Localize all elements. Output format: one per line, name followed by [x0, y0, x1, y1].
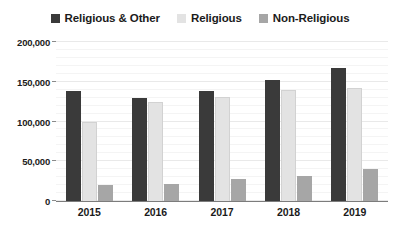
x-axis-tick-label: 2018: [255, 206, 321, 218]
legend-label: Religious: [191, 12, 242, 24]
bar-group: [189, 42, 255, 201]
bar[interactable]: [331, 68, 346, 201]
y-axis-tick-label: 0: [45, 196, 50, 207]
bar[interactable]: [265, 80, 280, 201]
bar-chart: Religious & OtherReligiousNon-Religious …: [0, 0, 400, 235]
y-axis-labels: 050,000100,000150,000200,000: [0, 42, 50, 201]
bar-group: [322, 42, 388, 201]
y-axis-tick-label: 200,000: [17, 37, 50, 48]
bar[interactable]: [347, 88, 362, 201]
bar-groups: [56, 42, 388, 201]
y-axis-tick-label: 150,000: [17, 76, 50, 87]
bar[interactable]: [215, 97, 230, 201]
legend-entry[interactable]: Non-Religious: [259, 12, 350, 24]
bar[interactable]: [132, 98, 147, 201]
x-axis-labels: 20152016201720182019: [56, 206, 388, 218]
bar[interactable]: [98, 185, 113, 201]
bar[interactable]: [363, 169, 378, 201]
square-swatch-icon: [259, 14, 268, 23]
y-axis-tick-label: 100,000: [17, 116, 50, 127]
plot-area: [56, 42, 388, 201]
x-axis-tick-label: 2019: [322, 206, 388, 218]
y-axis-tick-label: 50,000: [22, 156, 50, 167]
bar[interactable]: [66, 91, 81, 201]
bar[interactable]: [199, 91, 214, 202]
bar[interactable]: [164, 184, 179, 201]
x-axis-line: [56, 201, 388, 203]
bar-group: [122, 42, 188, 201]
bar-group: [255, 42, 321, 201]
x-axis-tick-label: 2017: [189, 206, 255, 218]
square-swatch-icon: [177, 14, 186, 23]
bar[interactable]: [82, 122, 97, 202]
bar-group: [56, 42, 122, 201]
bar[interactable]: [231, 179, 246, 201]
bar[interactable]: [281, 90, 296, 201]
legend-label: Religious & Other: [65, 12, 160, 24]
x-axis-tick-label: 2016: [122, 206, 188, 218]
chart-legend: Religious & OtherReligiousNon-Religious: [0, 12, 400, 24]
square-swatch-icon: [51, 14, 60, 23]
legend-entry[interactable]: Religious & Other: [51, 12, 160, 24]
x-axis-tick-label: 2015: [56, 206, 122, 218]
bar[interactable]: [297, 176, 312, 201]
legend-label: Non-Religious: [273, 12, 350, 24]
legend-entry[interactable]: Religious: [177, 12, 242, 24]
bar[interactable]: [148, 102, 163, 201]
